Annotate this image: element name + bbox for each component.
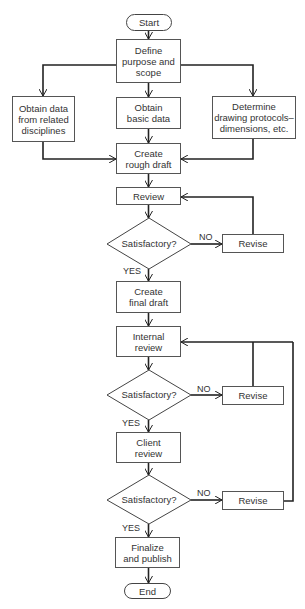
final-line-1: Create bbox=[134, 286, 163, 297]
no-label-2: NO bbox=[197, 384, 211, 394]
related-line-3: disciplines bbox=[22, 125, 66, 136]
revise-1-label: Revise bbox=[238, 238, 267, 249]
determine-line-2: drawing protocols– bbox=[214, 112, 294, 123]
client-line-2: review bbox=[135, 448, 162, 459]
internal-line-2: review bbox=[135, 342, 162, 353]
obtain-related-data-box: Obtain data from related disciplines bbox=[12, 96, 75, 142]
related-line-2: from related bbox=[18, 114, 69, 125]
no-label-1: NO bbox=[199, 232, 213, 242]
rough-line-1: Create bbox=[134, 148, 163, 159]
final-line-2: final draft bbox=[129, 297, 168, 308]
decision-2-label: Satisfactory? bbox=[107, 389, 191, 400]
rough-line-2: rough draft bbox=[126, 159, 172, 170]
client-line-1: Client bbox=[136, 437, 160, 448]
define-line-3: scope bbox=[136, 67, 161, 78]
finalize-line-2: and publish bbox=[123, 553, 172, 564]
determine-line-1: Determine bbox=[232, 101, 276, 112]
review-box: Review bbox=[116, 187, 181, 205]
define-line-1: Define bbox=[135, 45, 162, 56]
start-label: Start bbox=[139, 17, 159, 28]
finalize-line-1: Finalize bbox=[131, 542, 164, 553]
create-rough-draft-box: Create rough draft bbox=[116, 143, 181, 174]
yes-label-2: YES bbox=[122, 418, 140, 428]
decision-1-label: Satisfactory? bbox=[107, 238, 191, 249]
finalize-publish-box: Finalize and publish bbox=[115, 537, 180, 568]
client-review-box: Client review bbox=[116, 432, 181, 463]
define-purpose-box: Define purpose and scope bbox=[116, 39, 181, 83]
internal-review-box: Internal review bbox=[116, 326, 181, 357]
review-label: Review bbox=[133, 191, 164, 202]
revise-box-3: Revise bbox=[222, 491, 284, 510]
start-terminal: Start bbox=[126, 14, 172, 31]
revise-box-2: Revise bbox=[222, 386, 284, 405]
determine-line-3: dimensions, etc. bbox=[220, 123, 289, 134]
related-line-1: Obtain data bbox=[19, 103, 68, 114]
yes-label-1: YES bbox=[123, 266, 141, 276]
decision-3-label: Satisfactory? bbox=[107, 494, 191, 505]
yes-label-3: YES bbox=[122, 523, 140, 533]
define-line-2: purpose and bbox=[122, 56, 175, 67]
end-terminal: End bbox=[124, 583, 171, 599]
basic-line-1: Obtain bbox=[135, 102, 163, 113]
create-final-draft-box: Create final draft bbox=[116, 281, 181, 313]
basic-line-2: basic data bbox=[127, 113, 170, 124]
revise-3-label: Revise bbox=[238, 495, 267, 506]
revise-2-label: Revise bbox=[238, 390, 267, 401]
end-label: End bbox=[139, 586, 156, 597]
obtain-basic-data-box: Obtain basic data bbox=[116, 97, 181, 129]
determine-protocols-box: Determine drawing protocols– dimensions,… bbox=[212, 96, 296, 139]
internal-line-1: Internal bbox=[133, 331, 165, 342]
no-label-3: NO bbox=[197, 488, 211, 498]
revise-box-1: Revise bbox=[222, 234, 284, 253]
